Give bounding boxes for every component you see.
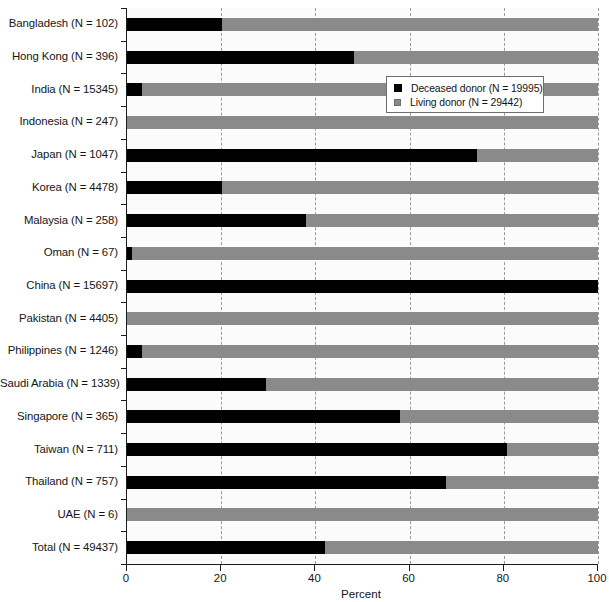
legend-label-living: Living donor (N = 29442) — [410, 97, 522, 108]
legend-swatch-deceased-icon — [394, 84, 402, 92]
y-axis-category-label: Malaysia (N = 258) — [0, 214, 118, 227]
bar-segment-living — [222, 18, 598, 31]
bar-segment-deceased — [127, 541, 325, 554]
bar-row — [127, 280, 598, 293]
bar-row — [127, 443, 598, 456]
x-axis-tick-label: 20 — [214, 572, 227, 584]
bar-segment-deceased — [127, 443, 507, 456]
legend-item-living: Living donor (N = 29442) — [387, 95, 543, 109]
y-axis-category-label: Bangladesh (N = 102) — [0, 17, 118, 30]
bar-row — [127, 410, 598, 423]
bar-row — [127, 149, 598, 162]
bar-segment-living — [266, 378, 598, 391]
y-axis-category-label: Japan (N = 1047) — [0, 148, 118, 161]
x-axis-tick-label: 80 — [496, 572, 509, 584]
bar-segment-living — [222, 181, 598, 194]
x-axis-tick-label: 40 — [308, 572, 321, 584]
y-axis-category-label: Singapore (N = 365) — [0, 410, 118, 423]
y-axis-category-label: Thailand (N = 757) — [0, 475, 118, 488]
bar-row — [127, 345, 598, 358]
bar-segment-living — [446, 476, 598, 489]
bar-segment-deceased — [127, 345, 142, 358]
bar-row — [127, 18, 598, 31]
bar-row — [127, 214, 598, 227]
y-axis-category-label: China (N = 15697) — [0, 279, 118, 292]
y-axis-category-label: India (N = 15345) — [0, 83, 118, 96]
y-axis-category-label: Saudi Arabia (N = 1339) — [0, 377, 118, 390]
bar-segment-living — [127, 312, 598, 325]
y-axis-category-label: Taiwan (N = 711) — [0, 443, 118, 456]
bar-row — [127, 508, 598, 521]
bar-segment-living — [142, 345, 598, 358]
bar-segment-living — [127, 116, 598, 129]
bar-row — [127, 378, 598, 391]
y-axis-category-label: Pakistan (N = 4405) — [0, 312, 118, 325]
x-axis-tick-label: 0 — [123, 572, 129, 584]
x-axis-tick — [409, 565, 410, 571]
bar-row — [127, 51, 598, 64]
bar-segment-deceased — [127, 214, 306, 227]
legend: Deceased donor (N = 19995) Living donor … — [386, 76, 544, 113]
x-axis-tick — [126, 565, 127, 571]
bar-segment-deceased — [127, 280, 598, 293]
bar-segment-deceased — [127, 51, 354, 64]
bar-segment-living — [477, 149, 598, 162]
bar-segment-deceased — [127, 181, 222, 194]
y-axis-category-label: Indonesia (N = 247) — [0, 115, 118, 128]
y-axis-category-label: Hong Kong (N = 396) — [0, 50, 118, 63]
x-axis-tick — [503, 565, 504, 571]
bar-row — [127, 247, 598, 260]
bar-segment-deceased — [127, 476, 446, 489]
bar-row — [127, 116, 598, 129]
bar-segment-deceased — [127, 83, 142, 96]
bar-segment-living — [400, 410, 598, 423]
bar-segment-deceased — [127, 149, 477, 162]
y-axis-category-label: Philippines (N = 1246) — [0, 344, 118, 357]
bar-segment-living — [132, 247, 598, 260]
gridline — [598, 8, 599, 564]
bar-row — [127, 541, 598, 554]
y-axis-category-label: Korea (N = 4478) — [0, 181, 118, 194]
bar-segment-living — [127, 508, 598, 521]
bar-row — [127, 181, 598, 194]
x-axis-tick-label: 100 — [587, 572, 606, 584]
bar-segment-living — [306, 214, 598, 227]
x-axis-tick — [597, 565, 598, 571]
x-axis-title: Percent — [341, 587, 381, 600]
x-axis-tick — [220, 565, 221, 571]
bar-segment-deceased — [127, 410, 400, 423]
legend-swatch-living-icon — [394, 99, 401, 106]
bar-row — [127, 476, 598, 489]
bar-segment-living — [507, 443, 598, 456]
bar-segment-deceased — [127, 378, 266, 391]
y-axis-category-label: UAE (N = 6) — [0, 508, 118, 521]
x-axis-tick-label: 60 — [402, 572, 415, 584]
legend-item-deceased: Deceased donor (N = 19995) — [387, 81, 543, 95]
bar-row — [127, 312, 598, 325]
y-axis-category-label: Oman (N = 67) — [0, 246, 118, 259]
stacked-bar-chart: Bangladesh (N = 102)Hong Kong (N = 396)I… — [0, 0, 609, 602]
legend-label-deceased: Deceased donor (N = 19995) — [411, 83, 543, 94]
bar-segment-living — [325, 541, 598, 554]
bar-segment-living — [354, 51, 598, 64]
y-axis-category-label: Total (N = 49437) — [0, 541, 118, 554]
bar-segment-deceased — [127, 18, 222, 31]
x-axis-tick — [314, 565, 315, 571]
